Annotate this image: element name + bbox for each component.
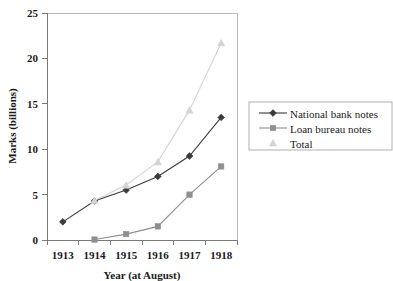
y-axis-ticks bbox=[42, 13, 47, 240]
data-series-layer bbox=[59, 39, 224, 242]
x-tick-label-1913: 1913 bbox=[52, 249, 75, 261]
data-point bbox=[186, 107, 193, 114]
data-point bbox=[154, 173, 161, 180]
y-tick-label-5: 5 bbox=[33, 189, 39, 201]
y-tick-label-25: 25 bbox=[27, 7, 39, 19]
legend-swatch-marker bbox=[270, 125, 275, 130]
legend-label-national-bank-notes: National bank notes bbox=[290, 108, 378, 120]
data-point bbox=[218, 164, 223, 169]
data-point bbox=[59, 218, 66, 225]
data-point bbox=[92, 237, 97, 242]
x-tick-label-1915: 1915 bbox=[115, 249, 138, 261]
line-chart-svg: 0 5 10 15 20 25 1913 1914 1915 1916 1917… bbox=[0, 0, 393, 281]
series-national-bank-notes bbox=[59, 114, 224, 225]
series-line bbox=[63, 117, 221, 221]
legend-label-total: Total bbox=[290, 138, 312, 150]
y-tick-label-15: 15 bbox=[27, 98, 39, 110]
x-axis-title: Year (at August) bbox=[104, 269, 181, 281]
x-tick-label-1914: 1914 bbox=[84, 249, 107, 261]
x-tick-label-1918: 1918 bbox=[210, 249, 233, 261]
x-tick-label-1917: 1917 bbox=[179, 249, 202, 261]
data-point bbox=[123, 231, 128, 236]
data-point bbox=[187, 192, 192, 197]
data-point bbox=[154, 158, 161, 165]
y-tick-label-0: 0 bbox=[33, 234, 39, 246]
x-tick-label-1916: 1916 bbox=[147, 249, 170, 261]
y-axis-tick-labels: 0 5 10 15 20 25 bbox=[27, 7, 39, 246]
y-tick-label-10: 10 bbox=[27, 143, 39, 155]
chart-figure: 0 5 10 15 20 25 1913 1914 1915 1916 1917… bbox=[0, 0, 393, 281]
x-axis-tick-labels: 1913 1914 1915 1916 1917 1918 bbox=[52, 249, 233, 261]
y-axis-title: Marks (billions) bbox=[6, 88, 19, 164]
plot-area-border bbox=[47, 13, 237, 240]
data-point bbox=[218, 39, 225, 46]
data-point bbox=[123, 181, 130, 188]
x-axis-ticks bbox=[47, 240, 237, 245]
y-tick-label-20: 20 bbox=[27, 52, 39, 64]
data-point bbox=[155, 224, 160, 229]
legend: National bank notes Loan bureau notes To… bbox=[249, 102, 392, 150]
legend-label-loan-bureau-notes: Loan bureau notes bbox=[290, 123, 371, 135]
